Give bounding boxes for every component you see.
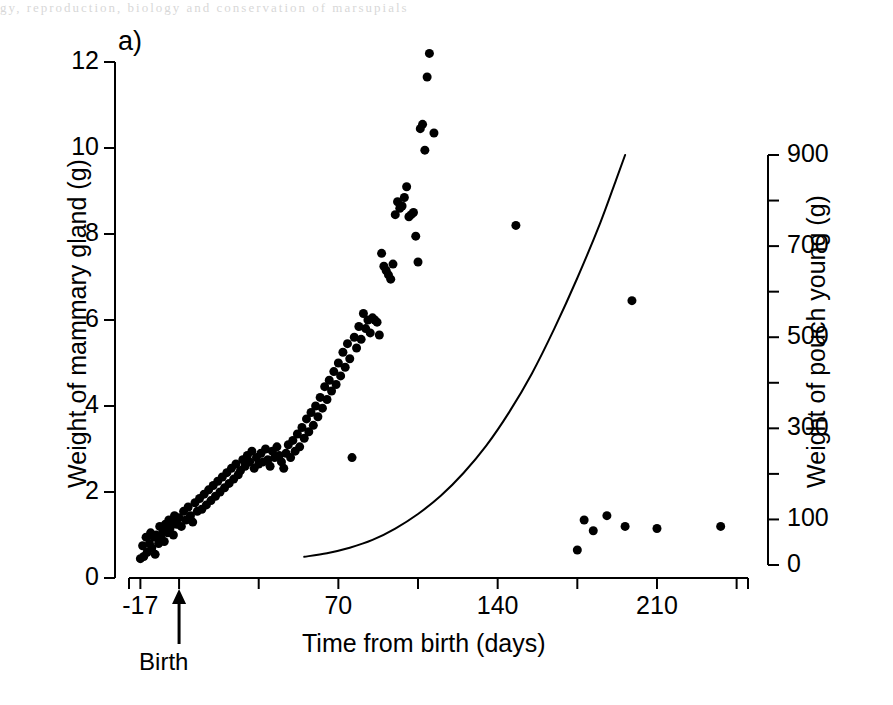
data-point <box>309 421 318 430</box>
data-point <box>338 348 347 357</box>
data-point <box>188 518 197 527</box>
data-point <box>386 275 395 284</box>
mammary-gland-points <box>136 49 725 563</box>
data-point <box>279 464 288 473</box>
data-point <box>411 232 420 241</box>
data-point <box>352 343 361 352</box>
data-point <box>511 221 520 230</box>
data-point <box>580 515 589 524</box>
data-point <box>322 395 331 404</box>
data-point <box>343 339 352 348</box>
data-point <box>295 442 304 451</box>
data-point <box>272 442 281 451</box>
data-point <box>366 328 375 337</box>
data-point <box>388 260 397 269</box>
data-point <box>402 182 411 191</box>
data-point <box>414 257 423 266</box>
figure-container: gy, reproduction, biology and conservati… <box>0 0 893 705</box>
data-point <box>336 371 345 380</box>
data-point <box>409 208 418 217</box>
data-point <box>169 531 178 540</box>
data-point <box>400 193 409 202</box>
data-point <box>652 524 661 533</box>
birth-arrow-icon <box>172 589 186 644</box>
data-point <box>373 318 382 327</box>
data-point <box>160 537 169 546</box>
data-point <box>345 354 354 363</box>
data-point <box>377 249 386 258</box>
data-point <box>573 546 582 555</box>
data-point <box>375 331 384 340</box>
data-point <box>423 73 432 82</box>
data-point <box>318 404 327 413</box>
data-point <box>418 120 427 129</box>
data-point <box>313 412 322 421</box>
data-point <box>420 146 429 155</box>
data-point <box>621 522 630 531</box>
data-point <box>589 526 598 535</box>
data-point <box>348 453 357 462</box>
data-point <box>398 202 407 211</box>
plot-canvas <box>0 0 893 705</box>
data-point <box>357 335 366 344</box>
data-point <box>151 550 160 559</box>
data-point <box>429 128 438 137</box>
data-point <box>716 522 725 531</box>
data-point <box>425 49 434 58</box>
data-point <box>332 380 341 389</box>
data-point <box>341 363 350 372</box>
data-point <box>602 511 611 520</box>
data-point <box>266 462 275 471</box>
data-point <box>627 296 636 305</box>
